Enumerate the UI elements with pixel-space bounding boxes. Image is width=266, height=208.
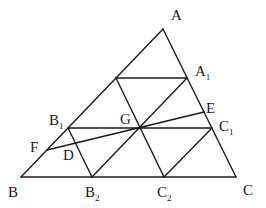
- geometry-diagram: A A1 E B1 G C1 F D B B2 C2 C: [0, 0, 266, 208]
- label-e: E: [206, 100, 215, 116]
- label-f: F: [30, 139, 38, 155]
- side-ca: [163, 29, 236, 177]
- side-ab: [21, 29, 163, 177]
- segment-c1-c2: [164, 128, 212, 177]
- label-a: A: [171, 7, 182, 23]
- labels: A A1 E B1 G C1 F D B B2 C2 C: [8, 7, 253, 203]
- label-d: D: [63, 147, 74, 163]
- label-c: C: [243, 182, 253, 198]
- label-b2: B2: [85, 184, 100, 203]
- label-a1: A1: [195, 63, 210, 82]
- label-g: G: [120, 111, 131, 127]
- label-c1: C1: [219, 118, 234, 137]
- segments: [21, 29, 236, 177]
- label-c2: C2: [157, 184, 172, 203]
- label-b: B: [8, 184, 18, 200]
- label-b1: B1: [49, 112, 64, 131]
